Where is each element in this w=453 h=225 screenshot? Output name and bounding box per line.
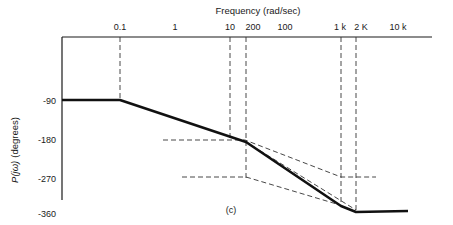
component-asymptotes	[163, 140, 376, 210]
phase-asymptote-line	[62, 100, 408, 212]
x-tick-label: 10	[225, 22, 235, 32]
x-tick-label: 200	[245, 22, 260, 32]
phase-plot: Frequency (rad/sec) 0.1 1 10 200 100 1 k…	[0, 0, 453, 225]
x-tick-label: 10 k	[389, 22, 407, 32]
x-axis-title: Frequency (rad/sec)	[215, 5, 300, 16]
y-axis-title: P(jω)(degrees)	[9, 117, 20, 183]
asymptote-minus-270	[182, 177, 340, 205]
y-tick-labels: -90 -180 -270 -360	[38, 96, 56, 219]
x-tick-label: 1 k	[334, 22, 347, 32]
figure-caption: (c)	[226, 205, 237, 215]
x-tick-label: 1	[172, 22, 177, 32]
x-tick-label: 0.1	[114, 22, 127, 32]
y-tick-label: -90	[43, 96, 56, 106]
x-tick-labels: 0.1 1 10 200 100 1 k 2 K 10 k	[114, 22, 407, 32]
y-axis-title-main: P(jω)(degrees)	[9, 117, 20, 183]
x-tick-label: 2 K	[354, 22, 368, 32]
y-tick-label: -180	[38, 135, 56, 145]
y-tick-label: -270	[38, 174, 56, 184]
vertical-reference-lines	[120, 37, 356, 210]
y-tick-label: -360	[38, 209, 56, 219]
x-tick-label: 100	[277, 22, 292, 32]
